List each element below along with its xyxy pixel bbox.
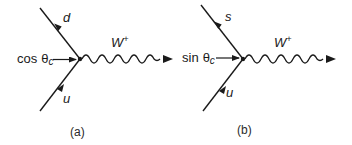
boson-label: W+ [111, 34, 129, 50]
w-boson-line [82, 55, 160, 63]
arrow-icon [326, 55, 336, 63]
diagram-b: s u W+ sinθc (b) [182, 5, 336, 137]
boson-label: W+ [274, 34, 292, 50]
vertex-dot [241, 57, 245, 61]
quark-line-u [40, 59, 80, 111]
caption-a: (a) [70, 125, 85, 139]
arrow-icon [219, 86, 226, 94]
coupling-label: sinθc [182, 50, 215, 66]
caption-b: (b) [237, 123, 252, 137]
coupling-label: cosθc [17, 51, 53, 67]
feynman-diagrams: d u W+ cosθc (a) s u W+ sinθc (b) [0, 0, 352, 145]
w-boson-line [245, 55, 323, 63]
quark-label-u: u [226, 85, 233, 100]
quark-label-d: d [63, 10, 71, 25]
diagram-a: d u W+ cosθc (a) [17, 8, 173, 139]
arrow-icon [214, 21, 222, 30]
quark-line-u [203, 59, 243, 111]
quark-label-s: s [225, 9, 232, 24]
arrow-icon [163, 55, 173, 63]
quark-label-u: u [63, 91, 70, 106]
vertex-dot [78, 57, 82, 61]
